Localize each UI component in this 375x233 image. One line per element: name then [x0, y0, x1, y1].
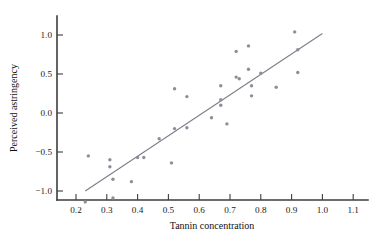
plot-canvas: 0.20.30.40.50.60.70.80.91.01.1 Tannin co… — [0, 0, 375, 233]
data-point — [185, 95, 188, 98]
data-point — [185, 126, 188, 129]
x-tick-label: 0.2 — [70, 205, 82, 215]
data-point — [219, 104, 222, 107]
data-point — [247, 68, 250, 71]
data-point — [173, 127, 176, 130]
y-tick-label: 0.5 — [41, 69, 53, 79]
y-tick-label: −0.5 — [35, 147, 52, 157]
data-point — [296, 48, 299, 51]
data-point — [108, 158, 111, 161]
data-point — [111, 196, 114, 199]
y-tick-label: 1.0 — [41, 30, 53, 40]
scatter-plot-figure: 0.20.30.40.50.60.70.80.91.01.1 Tannin co… — [0, 0, 375, 233]
regression-line — [85, 33, 322, 191]
data-point — [219, 98, 222, 101]
y-tick-label: −1.0 — [35, 186, 52, 196]
x-tick-label: 0.9 — [286, 205, 298, 215]
data-point — [250, 84, 253, 87]
data-point — [136, 156, 139, 159]
x-axis: 0.20.30.40.50.60.70.80.91.01.1 Tannin co… — [57, 194, 368, 231]
data-point — [157, 137, 160, 140]
data-point — [142, 156, 145, 159]
data-point — [84, 200, 87, 203]
data-point — [247, 44, 250, 47]
data-point — [234, 50, 237, 53]
x-tick-label: 1.0 — [317, 205, 329, 215]
data-point — [296, 71, 299, 74]
data-point — [275, 86, 278, 89]
y-tick-label-group: 1.00.50.0−0.5−1.0 — [35, 30, 52, 196]
data-point — [225, 122, 228, 125]
x-tick-label-group: 0.20.30.40.50.60.70.80.91.01.1 — [70, 205, 359, 215]
x-axis-label: Tannin concentration — [170, 220, 255, 231]
x-tick-label: 0.4 — [132, 205, 144, 215]
data-point — [87, 154, 90, 157]
data-point — [219, 84, 222, 87]
y-tick-label: 0.0 — [41, 108, 53, 118]
y-axis-label: Perceived astringency — [8, 64, 19, 152]
x-tick-label: 0.3 — [101, 205, 113, 215]
data-point — [238, 77, 241, 80]
y-axis: 1.00.50.0−0.5−1.0 Perceived astringency — [8, 16, 63, 200]
data-point-group — [84, 30, 300, 203]
x-tick-label: 0.7 — [224, 205, 236, 215]
data-point — [173, 87, 176, 90]
data-point — [234, 75, 237, 78]
data-point — [293, 30, 296, 33]
data-point — [210, 116, 213, 119]
data-point — [170, 161, 173, 164]
data-point — [259, 72, 262, 75]
x-tick-label: 0.8 — [255, 205, 267, 215]
x-tick-label: 0.5 — [163, 205, 175, 215]
x-tick-label: 1.1 — [347, 205, 359, 215]
data-point — [111, 178, 114, 181]
x-tick-label: 0.6 — [193, 205, 205, 215]
data-point — [130, 180, 133, 183]
y-tick-group — [57, 35, 63, 191]
x-tick-group — [76, 194, 353, 200]
data-point — [250, 94, 253, 97]
data-point — [108, 165, 111, 168]
